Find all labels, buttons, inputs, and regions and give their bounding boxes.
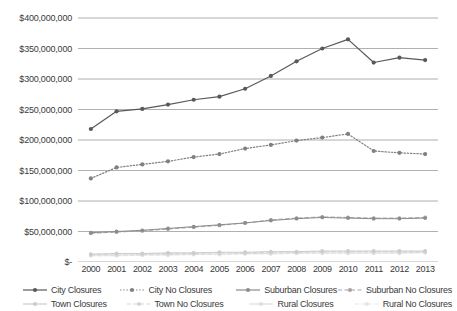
legend-marker [22, 299, 48, 309]
y-axis-tick-label: $250,000,000 [0, 105, 72, 115]
legend-label: Rural No Closures [383, 299, 452, 309]
series-line [91, 134, 425, 179]
legend-label: Rural Closures [277, 299, 333, 309]
y-axis-tick-label: $400,000,000 [0, 13, 72, 23]
data-point [294, 59, 298, 63]
data-point [243, 87, 247, 91]
legend-label: City No Closures [148, 285, 212, 295]
data-point [397, 151, 401, 155]
y-axis-tick-label: $300,000,000 [0, 74, 72, 84]
plot-area [78, 0, 438, 262]
data-point [192, 98, 196, 102]
chart-legend: City ClosuresCity No ClosuresSuburban Cl… [22, 283, 452, 311]
legend-item-town-closures[interactable]: Town Closures [22, 299, 126, 309]
legend-row-2: Town ClosuresTown No ClosuresRural Closu… [22, 297, 452, 311]
data-point [372, 60, 376, 64]
legend-item-town-no-closures[interactable]: Town No Closures [126, 299, 249, 309]
x-axis-tick-label: 2002 [129, 264, 155, 280]
data-point [192, 251, 196, 255]
data-point [89, 252, 93, 256]
data-point [320, 249, 324, 253]
data-point [398, 249, 402, 253]
data-point [372, 149, 376, 153]
data-point [192, 155, 196, 159]
data-point [217, 95, 221, 99]
data-point [295, 250, 299, 254]
data-point [166, 227, 170, 231]
legend-label: Town No Closures [155, 299, 224, 309]
data-point [346, 37, 350, 41]
data-point [320, 216, 324, 220]
y-axis-tick-label: $350,000,000 [0, 44, 72, 54]
data-point [89, 231, 93, 235]
legend-item-rural-no-closures[interactable]: Rural No Closures [354, 299, 452, 309]
data-point [217, 152, 221, 156]
legend-marker [354, 299, 380, 309]
legend-item-city-closures[interactable]: City Closures [22, 285, 119, 295]
legend-item-rural-closures[interactable]: Rural Closures [248, 299, 353, 309]
data-point [140, 252, 144, 256]
data-point [243, 146, 247, 150]
data-point [269, 143, 273, 147]
legend-item-suburban-closures[interactable]: Suburban Closures [235, 285, 337, 295]
x-axis-tick-label: 2011 [361, 264, 387, 280]
data-point [294, 139, 298, 143]
data-point [140, 228, 144, 232]
data-point [192, 225, 196, 229]
legend-item-suburban-no-closures[interactable]: Suburban No Closures [337, 285, 452, 295]
legend-label: City Closures [51, 285, 101, 295]
x-axis-tick-label: 2008 [284, 264, 310, 280]
data-point [89, 127, 93, 131]
legend-marker [126, 299, 152, 309]
data-point [269, 250, 273, 254]
x-axis-tick-label: 2003 [155, 264, 181, 280]
x-axis-tick-label: 2005 [207, 264, 233, 280]
data-point [320, 135, 324, 139]
data-point [218, 223, 222, 227]
data-point [114, 165, 118, 169]
data-point [346, 249, 350, 253]
y-axis-tick-label: $100,000,000 [0, 196, 72, 206]
series-city-no-closures [89, 132, 427, 181]
x-axis-tick-label: 2009 [309, 264, 335, 280]
x-axis-tick-label: 2012 [387, 264, 413, 280]
data-point [166, 159, 170, 163]
y-axis-tick-label: $50,000,000 [0, 227, 72, 237]
legend-marker [235, 285, 261, 295]
data-point [423, 216, 427, 220]
data-point [372, 249, 376, 253]
data-point [398, 217, 402, 221]
legend-row-1: City ClosuresCity No ClosuresSuburban Cl… [22, 283, 452, 297]
line-chart: $400,000,000$350,000,000$300,000,000$250… [0, 0, 457, 311]
x-axis: 2000200120022003200420052006200720082009… [78, 264, 438, 280]
data-point [269, 74, 273, 78]
series-suburban-no-closures [89, 215, 427, 235]
data-point [423, 58, 427, 62]
data-point [372, 217, 376, 221]
data-point [243, 221, 247, 225]
y-axis: $400,000,000$350,000,000$300,000,000$250… [0, 0, 72, 311]
data-point [346, 216, 350, 220]
data-point [89, 176, 93, 180]
data-point [269, 219, 273, 223]
legend-item-city-no-closures[interactable]: City No Closures [119, 285, 235, 295]
data-point [423, 152, 427, 156]
x-axis-tick-label: 2004 [181, 264, 207, 280]
x-axis-tick-label: 2000 [78, 264, 104, 280]
legend-marker [248, 299, 274, 309]
x-axis-tick-label: 2006 [232, 264, 258, 280]
data-point [346, 132, 350, 136]
x-axis-tick-label: 2010 [335, 264, 361, 280]
legend-marker [22, 285, 48, 295]
legend-label: Suburban Closures [264, 285, 337, 295]
data-point [423, 249, 427, 253]
legend-marker [337, 285, 363, 295]
series-city-closures [89, 37, 427, 131]
plot-svg [78, 0, 438, 262]
data-point [115, 252, 119, 256]
data-point [295, 217, 299, 221]
x-axis-tick-label: 2001 [104, 264, 130, 280]
data-point [243, 250, 247, 254]
data-point [320, 46, 324, 50]
series-line [91, 39, 425, 129]
